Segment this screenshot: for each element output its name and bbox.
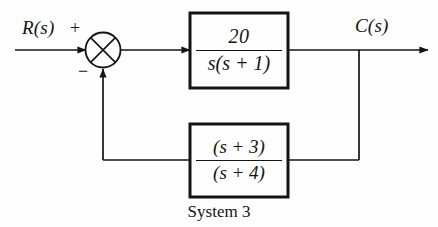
block-diagram-figure: R(s) + − C(s) 20 s(s + 1) (s + 3) (s + 4…	[0, 0, 438, 227]
forward-block-numerator: 20	[227, 26, 252, 48]
feedback-block-denominator: (s + 4)	[211, 163, 267, 184]
figure-caption: System 3	[0, 203, 438, 220]
feedback-block-fraction-bar	[196, 160, 282, 162]
summing-junction-minus-sign: −	[78, 62, 88, 80]
feedback-block-transfer-function: (s + 3) (s + 4)	[196, 129, 282, 192]
forward-block-denominator: s(s + 1)	[206, 53, 272, 75]
forward-block-transfer-function: 20 s(s + 1)	[196, 19, 282, 82]
feedback-block-numerator: (s + 3)	[211, 137, 267, 158]
forward-block-fraction-bar	[196, 50, 282, 52]
summing-junction-plus-sign: +	[70, 19, 80, 37]
input-signal-label: R(s)	[22, 18, 54, 37]
output-signal-label: C(s)	[355, 16, 389, 35]
